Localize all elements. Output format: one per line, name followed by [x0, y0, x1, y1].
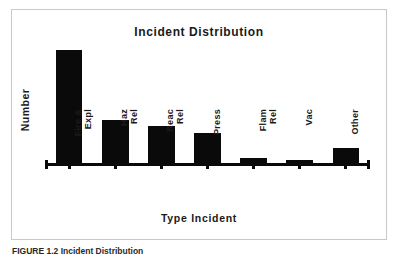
- x-axis-tick: [206, 160, 209, 169]
- x-tick-label: Other: [351, 109, 361, 173]
- x-tick-label: Flam Rel: [259, 109, 278, 173]
- x-tick-label: Haz Rel: [120, 109, 139, 173]
- x-tick-label: Reac Rel: [166, 109, 185, 173]
- x-tick-label: Press: [213, 109, 223, 173]
- figure-frame: Incident Distribution Number Type Incide…: [11, 9, 387, 240]
- figure-caption: FIGURE 1.2 Incident Distribution: [12, 246, 143, 255]
- x-axis-tick: [252, 160, 255, 169]
- x-axis-tick: [114, 160, 117, 169]
- x-tick-label: Fire & Expl: [74, 109, 93, 173]
- plot-area: [46, 50, 369, 163]
- x-axis-tick: [160, 160, 163, 169]
- chart-title: Incident Distribution: [12, 25, 386, 39]
- x-axis-end-tick: [367, 160, 370, 169]
- x-axis-title: Type Incident: [12, 212, 386, 224]
- y-axis-title: Number: [19, 80, 31, 140]
- x-axis-end-tick: [45, 160, 48, 169]
- x-axis-tick: [68, 160, 71, 169]
- x-axis-tick: [344, 160, 347, 169]
- x-tick-label: Vac: [305, 109, 315, 173]
- x-axis-tick: [298, 160, 301, 169]
